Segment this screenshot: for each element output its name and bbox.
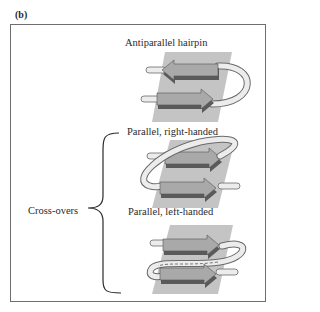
cross-overs-brace xyxy=(88,133,121,293)
parallel-left-handed-diagram xyxy=(150,225,243,294)
parallel-right-handed-diagram xyxy=(144,139,240,208)
antiparallel-hairpin-diagram xyxy=(141,52,247,122)
